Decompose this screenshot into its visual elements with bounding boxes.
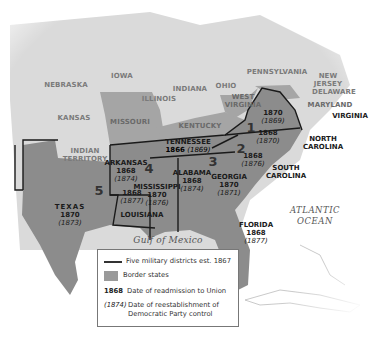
legend-item-readmission: 1868 Date of readmission to Union: [104, 287, 226, 295]
map-legend: Five military districts est. 1867 Border…: [97, 249, 239, 327]
border-states-swatch: [104, 271, 118, 281]
label-north-carolina: NORTH CAROLINA: [298, 135, 348, 151]
district-1-label: 1: [246, 120, 255, 135]
state-virginia-dates: 1870(1869): [261, 109, 284, 125]
label-virginia: VIRGINIA: [332, 112, 368, 120]
district-2-label: 2: [236, 141, 245, 156]
label-delaware: DELAWARE: [312, 88, 356, 96]
legend-item-democratic-control: (1874) Date of reestablishment of Democr…: [104, 301, 228, 319]
district-5-label: 5: [94, 183, 103, 198]
tennessee-readmitted: 1866: [165, 146, 184, 154]
district-3-label: 3: [208, 154, 217, 169]
district-4-label: 4: [144, 161, 153, 176]
legend-key: 1868: [104, 287, 124, 295]
label-gulf-of-mexico: Gulf of Mexico: [133, 235, 202, 246]
label-missouri: MISSOURI: [110, 118, 150, 126]
legend-item-border-states: Border states: [104, 271, 169, 281]
label-maryland: MARYLAND: [308, 101, 353, 109]
tennessee-democratic: (1869): [187, 146, 210, 154]
label-atlantic-ocean: ATLANTIC OCEAN: [290, 205, 340, 227]
label-illinois: ILLINOIS: [142, 95, 176, 103]
state-north-carolina-dates: 1868(1870): [256, 129, 279, 145]
label-ohio: OHIO: [216, 82, 237, 90]
label-kentucky: KENTUCKY: [179, 122, 222, 130]
district-line-swatch: [104, 261, 122, 263]
legend-label: Date of reestablishment of Democratic Pa…: [128, 301, 228, 319]
label-iowa: IOWA: [111, 72, 133, 80]
label-south-carolina: SOUTH CAROLINA: [261, 164, 311, 180]
label-indian-territory: INDIAN TERRITORY: [60, 147, 110, 163]
label-pennsylvania: PENNSYLVANIA: [247, 68, 308, 76]
legend-label: Border states: [123, 271, 169, 279]
state-tennessee: TENNESSEE 1866 (1869): [165, 138, 210, 154]
legend-label: Five military districts est. 1867: [126, 257, 231, 265]
legend-label: Date of readmission to Union: [127, 287, 226, 295]
label-louisiana: LOUISIANA: [121, 211, 164, 219]
label-west-virginia: WEST VIRGINIA: [223, 93, 263, 109]
state-texas: TEXAS1870(1873): [55, 203, 85, 227]
reconstruction-map: NEBRASKA IOWA ILLINOIS INDIANA OHIO PENN…: [0, 0, 385, 354]
label-nebraska: NEBRASKA: [44, 81, 87, 89]
state-arkansas: ARKANSAS1868(1874): [104, 159, 147, 183]
state-florida: FLORIDA1868(1877): [239, 221, 273, 245]
legend-item-district-lines: Five military districts est. 1867: [104, 257, 231, 265]
state-louisiana-dates: 1868(1877): [120, 189, 143, 205]
state-georgia: GEORGIA1870(1871): [211, 173, 247, 197]
label-indiana: INDIANA: [173, 85, 207, 93]
label-kansas: KANSAS: [58, 114, 91, 122]
legend-key: (1874): [104, 301, 126, 309]
label-new-jersey: NEW JERSEY: [308, 72, 348, 88]
